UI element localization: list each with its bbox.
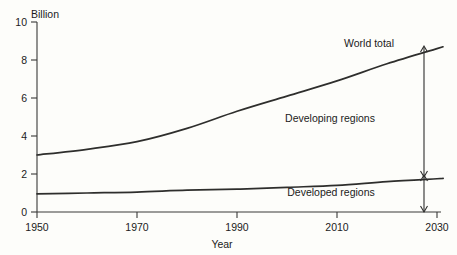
x-tick-label-2010: 2010 — [325, 221, 349, 233]
x-tick-label-1970: 1970 — [125, 221, 149, 233]
series-line-world-total — [37, 47, 443, 155]
label-world-total: World total — [344, 37, 394, 49]
x-tick-label-1990: 1990 — [225, 221, 249, 233]
label-developing-regions: Developing regions — [285, 112, 375, 124]
y-tick-label-10: 10 — [15, 16, 27, 28]
chart-canvas: Billion 10 8 6 4 2 0 1950 1970 1990 2010… — [0, 0, 457, 255]
y-tick-label-6: 6 — [21, 92, 27, 104]
y-tick-label-2: 2 — [21, 168, 27, 180]
y-tick-label-0: 0 — [21, 206, 27, 218]
x-axis-title: Year — [211, 238, 233, 250]
y-tick-label-8: 8 — [21, 54, 27, 66]
x-tick-label-1950: 1950 — [25, 221, 49, 233]
annotation-bracket — [421, 46, 428, 212]
series-line-developed-regions — [37, 178, 443, 194]
x-tick-label-2030: 2030 — [425, 221, 449, 233]
population-line-chart: Billion 10 8 6 4 2 0 1950 1970 1990 2010… — [0, 0, 457, 255]
y-tick-label-4: 4 — [21, 130, 27, 142]
label-developed-regions: Developed regions — [287, 186, 375, 198]
y-axis-title: Billion — [31, 8, 59, 20]
